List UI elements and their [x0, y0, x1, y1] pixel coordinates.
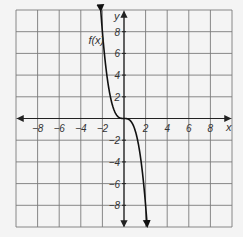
x-tick-label: −6 — [53, 123, 65, 134]
y-tick-label: −2 — [109, 135, 121, 146]
x-tick-label: 6 — [186, 123, 192, 134]
x-tick-label: 2 — [142, 123, 149, 134]
y-axis-label: y — [113, 10, 121, 22]
x-tick-label: −8 — [32, 123, 44, 134]
series-label-f-of-x: f(x) — [88, 34, 104, 46]
x-axis-label: x — [225, 121, 232, 133]
y-tick-label: −8 — [109, 200, 121, 211]
y-tick-label: −4 — [109, 157, 121, 168]
y-tick-label: −6 — [109, 179, 121, 190]
x-tick-label: 8 — [208, 123, 214, 134]
x-tick-label: −2 — [97, 123, 109, 134]
y-tick-label: 6 — [114, 48, 120, 59]
y-tick-label: 8 — [114, 27, 120, 38]
y-tick-label: 4 — [114, 70, 120, 81]
x-tick-label: −4 — [75, 123, 87, 134]
x-tick-label: 4 — [164, 123, 170, 134]
y-tick-label: 2 — [113, 92, 120, 103]
function-graph: −8−6−4−224688642−2−4−6−8 x y f(x) — [0, 0, 243, 237]
